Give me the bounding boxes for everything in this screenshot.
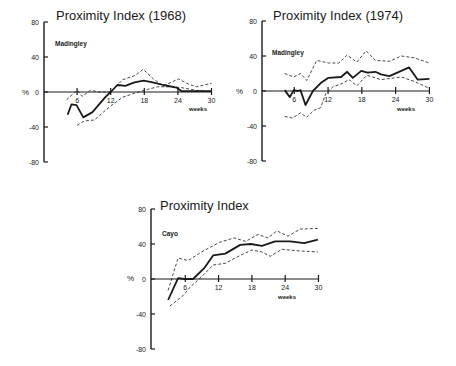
series-group: [67, 69, 212, 125]
y-axis-label: %: [236, 87, 243, 96]
site-label: Cayo: [162, 230, 178, 238]
x-tick-label: 6: [292, 96, 296, 103]
y-tick-label: 80: [31, 19, 39, 26]
axes: 80400-40-80612182430: [136, 206, 323, 353]
x-tick-label: 6: [183, 284, 187, 291]
y-tick-label: 0: [142, 276, 146, 283]
y-axis-label: %: [22, 88, 29, 97]
x-tick-label: 6: [75, 97, 79, 104]
figure: Proximity Index (1968) Madingley weeks %…: [0, 0, 456, 366]
y-tick-label: -80: [136, 346, 146, 353]
y-tick-label: 0: [35, 89, 39, 96]
x-tick-label: 18: [248, 284, 256, 291]
y-axis-label: %: [127, 274, 134, 283]
y-tick-label: 0: [253, 88, 257, 95]
chart-title: Proximity Index (1974): [273, 8, 403, 23]
series-mean-line: [168, 240, 318, 300]
y-tick-label: 40: [249, 53, 257, 60]
x-tick-label: 12: [215, 284, 223, 291]
panel-cayo: Proximity Index Cayo weeks % 80400-40-80…: [127, 198, 322, 353]
x-tick-label: 24: [281, 284, 289, 291]
panel-1974: Proximity Index (1974) Madingley weeks %…: [236, 8, 433, 165]
y-tick-label: -40: [29, 124, 39, 131]
series-upper-line: [67, 69, 212, 100]
site-label: Madingley: [272, 49, 304, 57]
y-tick-label: -80: [29, 159, 39, 166]
series-upper-line: [285, 51, 430, 81]
x-tick-label: 30: [208, 97, 216, 104]
x-tick-label: 30: [315, 284, 323, 291]
x-axis-label: weeks: [277, 294, 297, 300]
x-axis-label: weeks: [396, 106, 416, 112]
x-axis-label: weeks: [188, 106, 208, 112]
y-tick-label: -40: [136, 311, 146, 318]
y-tick-label: -80: [247, 158, 257, 165]
y-tick-label: -40: [247, 123, 257, 130]
panel-1968: Proximity Index (1968) Madingley weeks %…: [22, 8, 215, 166]
x-tick-label: 12: [107, 97, 115, 104]
chart-title: Proximity Index (1968): [56, 8, 186, 23]
series-upper-line: [168, 228, 318, 290]
x-tick-label: 12: [324, 96, 332, 103]
axes: 80400-40-80612182430: [247, 18, 434, 165]
x-tick-label: 18: [358, 96, 366, 103]
y-tick-label: 80: [138, 206, 146, 213]
x-tick-label: 24: [392, 96, 400, 103]
y-tick-label: 80: [249, 18, 257, 25]
chart-title: Proximity Index: [160, 198, 249, 213]
x-tick-label: 24: [174, 97, 182, 104]
x-tick-label: 18: [140, 97, 148, 104]
site-label: Madingley: [55, 40, 87, 48]
y-tick-label: 40: [138, 241, 146, 248]
x-tick-label: 30: [426, 96, 434, 103]
y-tick-label: 40: [31, 54, 39, 61]
